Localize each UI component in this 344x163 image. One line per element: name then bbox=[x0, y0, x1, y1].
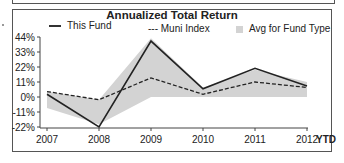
y-tick-label: 11% bbox=[16, 77, 35, 88]
avg-fund-type-area bbox=[47, 38, 307, 124]
y-tick-label: 33% bbox=[15, 47, 35, 58]
x-tick-label: 2011 bbox=[244, 134, 266, 145]
x-tick-label: 2010 bbox=[192, 134, 215, 145]
y-tick-label: -11% bbox=[12, 107, 35, 118]
x-tick-label: 2008 bbox=[88, 134, 111, 145]
plot-area: 44%33%22%11%0%-11%-22%200720082009201020… bbox=[0, 0, 344, 163]
x-tick-label: 2009 bbox=[140, 134, 163, 145]
ytd-label: YTD bbox=[316, 134, 336, 145]
y-tick-label: -22% bbox=[12, 122, 35, 133]
y-tick-label: 0% bbox=[21, 92, 36, 103]
x-tick-label: 2007 bbox=[36, 134, 59, 145]
y-tick-label: 22% bbox=[15, 62, 35, 73]
y-tick-label: 44% bbox=[15, 32, 35, 43]
